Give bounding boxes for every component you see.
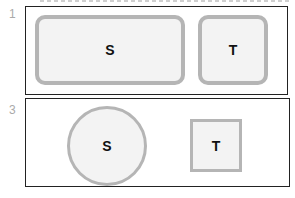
panel-3: S T <box>25 98 290 187</box>
shape-s-circle: S <box>67 106 147 186</box>
shape-t: T <box>198 15 268 85</box>
shape-s: S <box>35 15 185 85</box>
cropped-header-text <box>40 0 290 2</box>
panel-1: S T <box>25 6 288 95</box>
shape-t-square: T <box>190 119 242 172</box>
panel-number: 1 <box>9 7 16 21</box>
panel-number: 3 <box>9 103 16 117</box>
